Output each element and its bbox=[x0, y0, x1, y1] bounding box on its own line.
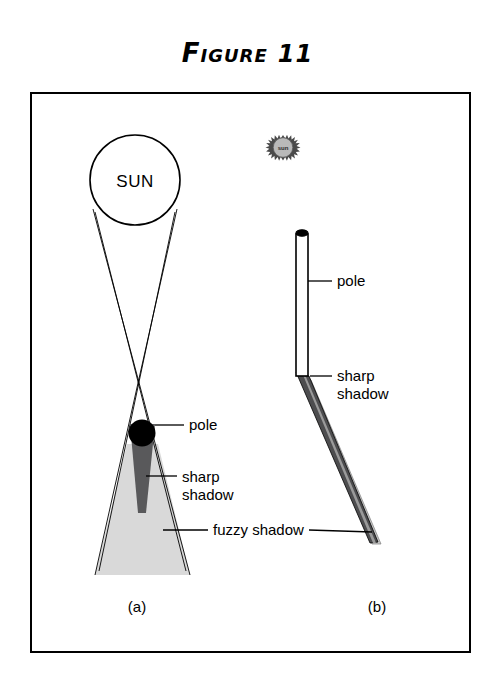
sharp-shadow-label-a-line1: sharp bbox=[182, 468, 220, 485]
pole-label-b: pole bbox=[337, 272, 365, 289]
sun-icon-label: sun bbox=[278, 145, 289, 151]
panel-b-caption: (b) bbox=[368, 598, 386, 615]
panel-a-caption: (a) bbox=[128, 598, 146, 615]
figure-canvas: SUN pole sharp shadow fuzzy shadow (a) s… bbox=[0, 0, 495, 675]
pole-cap-b bbox=[296, 230, 308, 236]
sharp-shadow-label-b-line1: sharp bbox=[337, 367, 375, 384]
pole-shape-b bbox=[296, 234, 308, 376]
pole-marker-a bbox=[129, 420, 156, 447]
fuzzy-shadow-label-a: fuzzy shadow bbox=[213, 521, 304, 538]
figure-root: Figure 11 SUN pole bbox=[0, 0, 495, 675]
sharp-shadow-label-b-line2: shadow bbox=[337, 385, 389, 402]
pole-label-a: pole bbox=[189, 416, 217, 433]
sharp-shadow-label-a-line2: shadow bbox=[182, 486, 234, 503]
sun-label: SUN bbox=[116, 172, 153, 191]
